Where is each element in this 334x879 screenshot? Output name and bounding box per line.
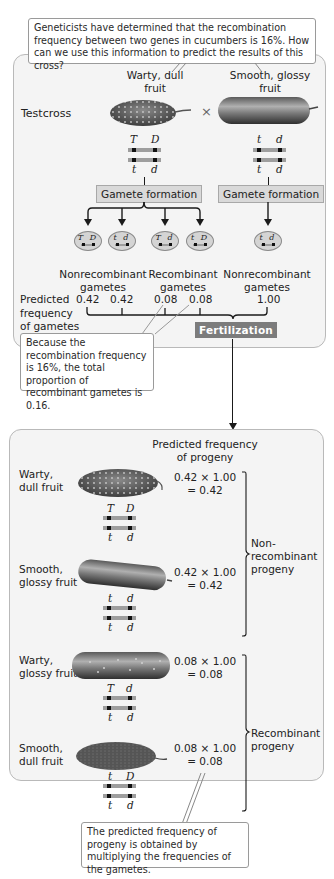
parent1-label-line1: Warty, dull [105,69,205,82]
gamete-alleles: t d [109,233,135,242]
gamete-alleles: T d [152,233,178,242]
locus-marker [169,243,172,246]
progeny-3-chromosome-bottom [103,706,136,710]
locus-marker [132,148,136,152]
question-callout-pointers [0,0,334,80]
smooth-glossy-cucumber-icon [74,558,174,594]
locus-marker [107,516,111,520]
locus-marker [153,158,157,162]
progeny-4-calculation: 0.08 × 1.00 = 0.08 [170,742,240,768]
progeny-1-chromosome-top [103,516,136,520]
locus-marker [116,243,119,246]
locus-marker [257,158,261,162]
locus-marker [92,243,95,246]
progeny-1-bottom-allele-1: t [108,531,112,543]
progeny-4-phenotype: Smooth, dull fruit [19,742,63,768]
smooth-dull-cucumber-icon [72,738,172,774]
progeny-3-phenotype: Warty, glossy fruit [19,654,77,680]
result-line: = 0.08 [170,668,240,681]
label-line: glossy fruit [19,667,77,680]
progeny-2-bottom-allele-2: d [127,621,134,633]
parent2-gametes-label: Nonrecombinant gametes [222,268,312,294]
gamete-alleles: T D [75,233,101,242]
progeny-1-top-allele-1: T [107,502,114,514]
label-line: Recombinant [251,727,320,740]
warty-dull-cucumber-icon [105,95,195,131]
locus-marker [107,616,111,620]
label-line: recombinant [251,550,317,563]
cross-symbol: × [201,105,212,118]
progeny-3-bottom-allele-2: d [127,711,134,723]
recombinant-gametes-label: Recombinant gametes [148,268,218,294]
parent1-chromosome-bottom [128,158,161,162]
gamete-alleles: t D [187,233,213,242]
parent1-chromosome-top [128,148,161,152]
locus-marker [153,148,157,152]
gamete-tD: t D [186,231,214,251]
locus-marker [159,243,162,246]
label-line: progeny [251,563,317,576]
label-line: Warty, [19,468,63,481]
parent2-bottom-allele-2: d [276,163,283,175]
multiplication-callout: The predicted frequency of progeny is ob… [81,822,249,868]
gamete-parent2-td: t d [254,231,282,251]
locus-marker [128,616,132,620]
locus-marker [107,606,111,610]
gamete-branch-arrows [0,200,334,230]
recombination-callout: Because the recombination frequency is 1… [20,333,154,391]
locus-marker [194,243,197,246]
locus-marker [128,606,132,610]
progeny-2-top-allele-1: t [108,592,112,604]
locus-marker [128,696,132,700]
label-line: Warty, [19,654,77,667]
locus-marker [204,243,207,246]
progeny-1-phenotype: Warty, dull fruit [19,468,63,494]
connector-line [268,177,269,185]
label-line: Predicted frequency [150,438,260,451]
parent1-label-line2: fruit [105,82,205,95]
progeny-2-top-allele-2: d [127,592,134,604]
label-line: Smooth, [19,563,77,576]
locus-marker [278,148,282,152]
recombinant-progeny-label: Recombinant progeny [251,727,320,753]
parent2-bottom-allele-1: t [257,163,261,175]
gamete-td: t d [108,231,136,251]
parent1-bottom-allele-1: t [132,163,136,175]
progeny-2-phenotype: Smooth, glossy fruit [19,563,77,589]
label-line: glossy fruit [19,576,77,589]
calc-line: 0.08 × 1.00 [170,655,240,668]
locus-marker [257,148,261,152]
locus-marker [82,243,85,246]
calc-line: 0.42 × 1.00 [170,471,240,484]
fertilization-arrow-line [232,339,233,423]
progeny-3-top-allele-2: d [126,682,133,694]
parent2-chromosome-top [253,148,286,152]
progeny-3-chromosome-top [103,696,136,700]
locus-marker [278,158,282,162]
recombination-callout-text: Because the recombination frequency is 1… [26,337,146,411]
locus-marker [262,243,265,246]
testcross-label: Testcross [21,107,71,120]
smooth-glossy-cucumber-icon [213,92,323,132]
label-line: progeny [251,740,320,753]
multiplication-callout-text: The predicted frequency of progeny is ob… [87,826,231,875]
progeny-2-bottom-allele-1: t [108,621,112,633]
connector-line [144,177,145,185]
parent2-top-allele-1: t [257,133,261,145]
locus-marker [128,526,132,530]
calc-line: 0.08 × 1.00 [170,742,240,755]
nonrecombinant-progeny-label: Non- recombinant progeny [251,537,317,576]
parent1-label: Warty, dull fruit [105,69,205,95]
locus-marker [128,706,132,710]
progeny-1-bottom-allele-2: d [127,531,134,543]
progeny-1-calculation: 0.42 × 1.00 = 0.42 [170,471,240,497]
warty-dull-cucumber-icon [74,466,170,500]
result-line: = 0.42 [170,579,240,592]
gamete-alleles: t d [255,233,281,242]
parent1-bottom-allele-2: d [151,163,158,175]
progeny-3-top-allele-1: T [107,682,114,694]
label-line: Nonrecombinant [58,268,148,281]
progeny-3-bottom-allele-1: t [108,711,112,723]
multiplication-callout-pointers [0,770,334,830]
parent2-chromosome-bottom [253,158,286,162]
